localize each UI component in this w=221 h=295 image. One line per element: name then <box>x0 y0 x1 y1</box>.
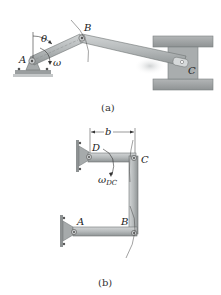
ground-support-a-fig-b <box>60 215 73 247</box>
label-b-fig-a: B <box>83 22 91 33</box>
label-c-fig-a: C <box>188 65 196 76</box>
link-ab-fig-b <box>73 227 137 236</box>
mechanism-diagram: A B C θ ω (a) b <box>0 0 221 295</box>
svg-text:b: b <box>105 126 111 137</box>
label-a-fig-b: A <box>76 216 84 227</box>
label-c-fig-b: C <box>141 154 149 165</box>
link-cb <box>129 156 138 234</box>
caption-a: (a) <box>101 102 115 113</box>
label-a-fig-a: A <box>18 54 26 65</box>
label-theta: θ <box>41 33 47 44</box>
label-omega-dc: ωDC <box>98 174 118 187</box>
label-d: D <box>91 142 100 153</box>
label-omega: ω <box>53 57 61 68</box>
figure-b: b <box>60 126 149 288</box>
figure-a: A B C θ ω (a) <box>13 20 213 113</box>
caption-b: (b) <box>98 277 112 288</box>
label-b-fig-b: B <box>120 216 128 227</box>
